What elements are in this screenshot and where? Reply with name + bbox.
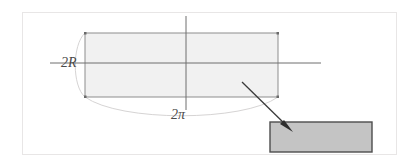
- unrolled-rectangle: [85, 33, 278, 97]
- corner-tick-bottom-right-icon: [277, 96, 280, 99]
- corner-tick-top-left-icon: [84, 32, 87, 35]
- label-2pi: 2π: [171, 108, 185, 122]
- label-2r-text: 2R: [61, 55, 77, 70]
- label-2r: 2R: [61, 56, 77, 70]
- diagram-canvas: [0, 0, 419, 167]
- label-2pi-text: 2π: [171, 107, 185, 122]
- corner-tick-top-right-icon: [277, 32, 280, 35]
- figure-root: 2R 2π: [0, 0, 419, 167]
- corner-tick-bottom-left-icon: [84, 96, 87, 99]
